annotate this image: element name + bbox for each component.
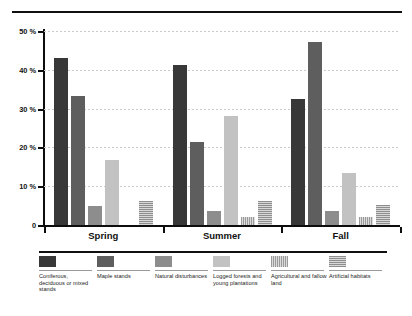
y-axis-labels: 010 %20 %30 %40 %50 % [0,0,36,316]
chart-legend: Coniferous, deciduous or mixed standsMap… [39,251,387,315]
bar [359,217,373,225]
x-axis-group-label: Spring [43,230,163,241]
y-axis-tick-label: 40 % [2,66,36,75]
title-divider [12,11,402,13]
gridline [44,109,400,110]
bar [190,142,204,225]
y-axis-tick-label: 30 % [2,105,36,114]
plot-area [44,31,400,225]
bar [139,201,153,225]
legend-item[interactable]: Agricultural and fallow land [271,256,327,286]
bar [308,42,322,225]
swatch-maple-icon [97,256,114,267]
chart-figure: 010 %20 %30 %40 %50 % SpringSummerFall C… [0,0,412,316]
legend-item[interactable]: Maple stands [97,256,153,280]
y-axis-tick-label: 0 [2,221,36,230]
bar [224,116,238,225]
bar [342,173,356,225]
legend-item-label: Coniferous, deciduous or mixed stands [39,273,95,293]
legend-item-label: Logged forests and young plantations [213,273,269,286]
legend-item-rule [97,270,150,271]
bar [258,201,272,225]
legend-item[interactable]: Coniferous, deciduous or mixed stands [39,256,95,293]
legend-item-rule [213,270,266,271]
bar [325,211,339,225]
bar [241,217,255,225]
legend-item-rule [329,270,382,271]
legend-item[interactable]: Logged forests and young plantations [213,256,269,286]
swatch-artificial-habitats-icon [329,256,346,267]
legend-item-label: Natural disturbances [155,273,211,280]
legend-item[interactable]: Artificial habitats [329,256,385,280]
legend-divider [39,251,387,253]
bar [376,205,390,225]
chart-title [12,0,402,3]
y-axis-tick-label: 50 % [2,27,36,36]
legend-item-rule [271,270,324,271]
legend-item-label: Artificial habitats [329,273,385,280]
bar [105,160,119,225]
gridline [44,31,400,32]
y-axis-tick-label: 10 % [2,182,36,191]
legend-item-rule [39,270,92,271]
bar [54,58,68,225]
bar [88,206,102,225]
x-axis-line [43,225,400,227]
legend-item-label: Maple stands [97,273,153,280]
x-axis-group-label: Summer [162,230,282,241]
swatch-natural-disturbances-icon [155,256,172,267]
gridline [44,147,400,148]
legend-item-rule [155,270,208,271]
gridline [44,70,400,71]
swatch-coniferous-icon [39,256,56,267]
bar [291,99,305,225]
legend-item-label: Agricultural and fallow land [271,273,327,286]
bar [173,65,187,225]
legend-item[interactable]: Natural disturbances [155,256,211,280]
bar [71,96,85,225]
swatch-logged-forests-icon [213,256,230,267]
x-axis-group-label: Fall [281,230,401,241]
bar [207,211,221,225]
y-axis-tick-label: 20 % [2,143,36,152]
swatch-agricultural-icon [271,256,288,267]
